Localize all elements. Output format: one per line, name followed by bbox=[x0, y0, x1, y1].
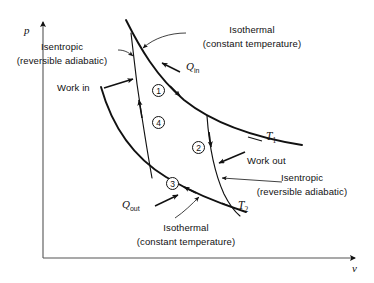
process-1-direction-arrow bbox=[170, 86, 180, 96]
q-in-symbol: Q bbox=[186, 60, 194, 72]
isothermal-lower-line2: (constant temperature) bbox=[137, 236, 235, 247]
work-in-label: Work in bbox=[57, 82, 90, 93]
leader-work-in bbox=[104, 79, 133, 88]
isotherm-T2-label: T2 bbox=[238, 199, 248, 214]
process-3-direction-arrow bbox=[184, 187, 196, 193]
process-4-direction-arrow bbox=[139, 100, 142, 118]
isentropic-lower-line1: Isentropic bbox=[281, 172, 323, 183]
isotherm-T1-label: T1 bbox=[266, 130, 276, 145]
pv-diagram-figure: p v Isentropic (reversible adiabatic) Wo… bbox=[0, 0, 374, 283]
isentropic-upper-line2: (reversible adiabatic) bbox=[17, 55, 107, 66]
leader-work-out bbox=[219, 152, 245, 163]
y-axis-label: p bbox=[24, 24, 30, 36]
leader-q-in bbox=[162, 63, 180, 72]
leader-T1 bbox=[248, 137, 262, 141]
isothermal-lower-line1: Isothermal bbox=[163, 222, 208, 233]
q-out-subscript: out bbox=[130, 205, 140, 212]
process-number-1: 1 bbox=[152, 84, 165, 97]
process-number-4: 4 bbox=[152, 116, 165, 129]
leader-isentropic-upper bbox=[118, 50, 133, 56]
isentropic-lower-line2: (reversible adiabatic) bbox=[257, 186, 347, 197]
curve-isentrope-expansion bbox=[207, 116, 240, 216]
leader-isentropic-lower bbox=[222, 178, 282, 182]
isothermal-upper-line2: (constant temperature) bbox=[203, 38, 301, 49]
isentropic-upper-line1: Isentropic bbox=[41, 41, 83, 52]
process-number-3: 3 bbox=[166, 177, 179, 190]
leader-isothermal-upper bbox=[143, 33, 186, 48]
q-in-label: Qin bbox=[186, 60, 199, 74]
leader-T2 bbox=[222, 203, 234, 208]
curve-isentrope-compression bbox=[131, 33, 152, 178]
process-2-isentrope bbox=[207, 116, 240, 216]
process-2-direction-arrow bbox=[209, 132, 211, 147]
x-axis-label: v bbox=[352, 262, 357, 274]
process-number-2: 2 bbox=[192, 141, 205, 154]
process-4-isentrope bbox=[131, 33, 152, 178]
q-out-symbol: Q bbox=[122, 198, 130, 210]
leader-isothermal-lower bbox=[175, 197, 199, 218]
q-out-label: Qout bbox=[122, 198, 140, 212]
q-in-subscript: in bbox=[194, 67, 199, 74]
T1-subscript: 1 bbox=[272, 136, 276, 145]
isothermal-upper-line1: Isothermal bbox=[229, 24, 274, 35]
T2-subscript: 2 bbox=[244, 205, 248, 214]
work-out-label: Work out bbox=[247, 155, 286, 166]
leader-q-out bbox=[155, 195, 178, 206]
